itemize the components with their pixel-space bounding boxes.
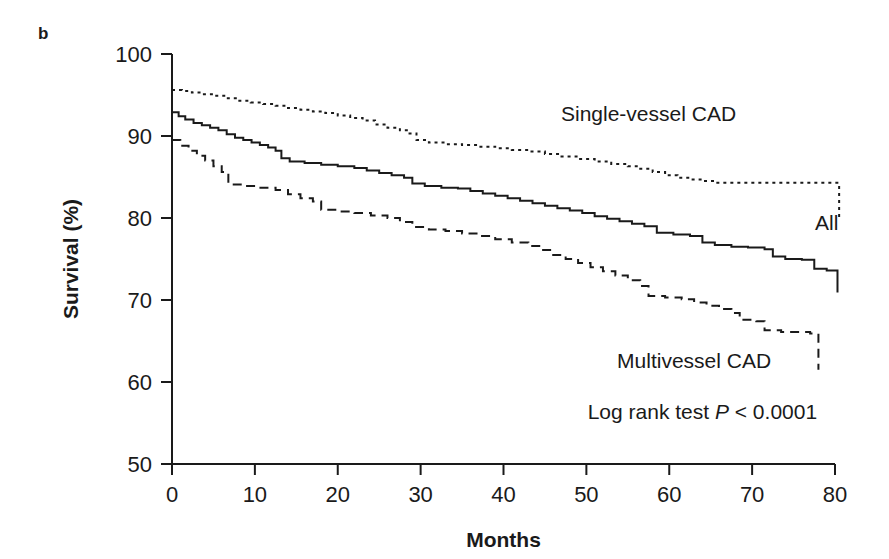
y-tick-label-80: 80 [128,206,152,231]
y-tick-label-60: 60 [128,370,152,395]
y-axis-title: Survival (%) [59,199,82,319]
km-curve-multivessel-cad [172,140,818,370]
y-tick-label-90: 90 [128,124,152,149]
all-label: All [815,211,838,234]
multivessel-cad-label: Multivessel CAD [617,349,771,372]
x-tick-label-30: 30 [408,482,432,507]
x-tick-label-0: 0 [166,482,178,507]
x-tick-label-20: 20 [326,482,350,507]
km-curve-single-vessel-cad [172,90,839,217]
y-tick-label-50: 50 [128,452,152,477]
km-curve-all [172,112,837,292]
x-tick-label-60: 60 [657,482,681,507]
single-vessel-cad-label: Single-vessel CAD [561,102,736,125]
x-tick-label-40: 40 [491,482,515,507]
x-axis-title: Months [466,528,541,551]
annotations-group: Single-vessel CADAllMultivessel CADLog r… [561,102,838,423]
curves-group [172,90,839,370]
x-tick-label-50: 50 [574,482,598,507]
survival-chart: 506070809010001020304050607080MonthsSurv… [0,0,889,559]
x-tick-label-70: 70 [740,482,764,507]
figure-root: b 506070809010001020304050607080MonthsSu… [0,0,889,559]
x-tick-label-10: 10 [243,482,267,507]
y-tick-label-100: 100 [115,42,152,67]
y-tick-label-70: 70 [128,288,152,313]
log-rank-test-label: Log rank test P < 0.0001 [588,400,817,423]
x-tick-label-80: 80 [823,482,847,507]
